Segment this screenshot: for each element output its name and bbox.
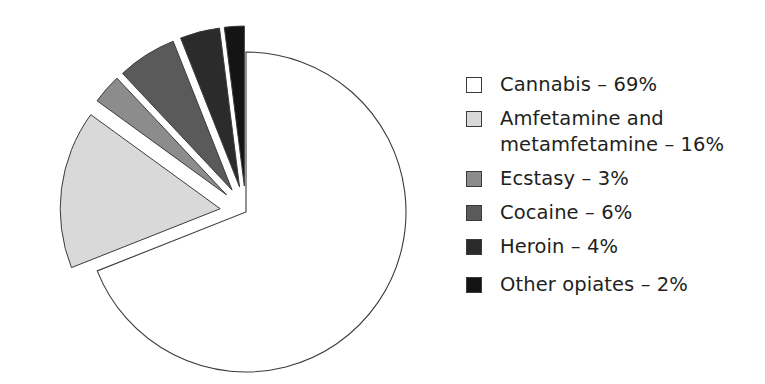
legend-label-amfetamine-and-metamfetamine: Amfetamine and metamfetamine – 16% bbox=[500, 106, 724, 158]
legend-item-cannabis: Cannabis – 69% bbox=[466, 72, 762, 98]
legend-label-other-opiates: Other opiates – 2% bbox=[500, 272, 688, 298]
pie-chart-plot-area bbox=[0, 0, 460, 384]
pie-chart-svg bbox=[0, 0, 460, 384]
legend-swatch-ecstasy bbox=[466, 171, 482, 187]
legend-swatch-cocaine bbox=[466, 205, 482, 221]
pie-slice-group bbox=[60, 26, 406, 372]
legend-item-cocaine: Cocaine – 6% bbox=[466, 200, 762, 226]
legend-label-cannabis: Cannabis – 69% bbox=[500, 72, 657, 98]
legend-swatch-other-opiates bbox=[466, 277, 482, 293]
legend-swatch-amfetamine-and-metamfetamine bbox=[466, 111, 482, 127]
legend-swatch-cannabis bbox=[466, 77, 482, 93]
legend-item-other-opiates: Other opiates – 2% bbox=[466, 272, 762, 298]
legend-label-ecstasy: Ecstasy – 3% bbox=[500, 166, 629, 192]
legend-item-heroin: Heroin – 4% bbox=[466, 234, 762, 260]
pie-chart-figure: Cannabis – 69%Amfetamine and metamfetami… bbox=[0, 0, 765, 384]
legend-label-cocaine: Cocaine – 6% bbox=[500, 200, 632, 226]
chart-legend: Cannabis – 69%Amfetamine and metamfetami… bbox=[466, 72, 762, 306]
legend-item-ecstasy: Ecstasy – 3% bbox=[466, 166, 762, 192]
legend-item-amfetamine-and-metamfetamine: Amfetamine and metamfetamine – 16% bbox=[466, 106, 762, 158]
legend-label-heroin: Heroin – 4% bbox=[500, 234, 618, 260]
legend-swatch-heroin bbox=[466, 239, 482, 255]
